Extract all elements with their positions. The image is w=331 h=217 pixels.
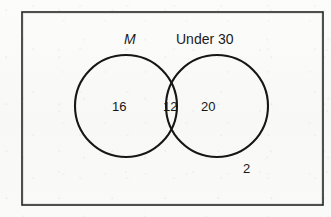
region-count-m-only: 16 bbox=[112, 100, 126, 113]
set-circle-under30 bbox=[166, 55, 268, 157]
region-count-neither: 2 bbox=[243, 162, 250, 175]
region-count-intersection: 12 bbox=[163, 100, 177, 113]
region-count-under30-only: 20 bbox=[201, 100, 215, 113]
venn-diagram-figure: M Under 30 16 12 20 2 bbox=[0, 0, 331, 217]
set-label-under30: Under 30 bbox=[176, 32, 234, 46]
set-label-m: M bbox=[124, 32, 136, 46]
